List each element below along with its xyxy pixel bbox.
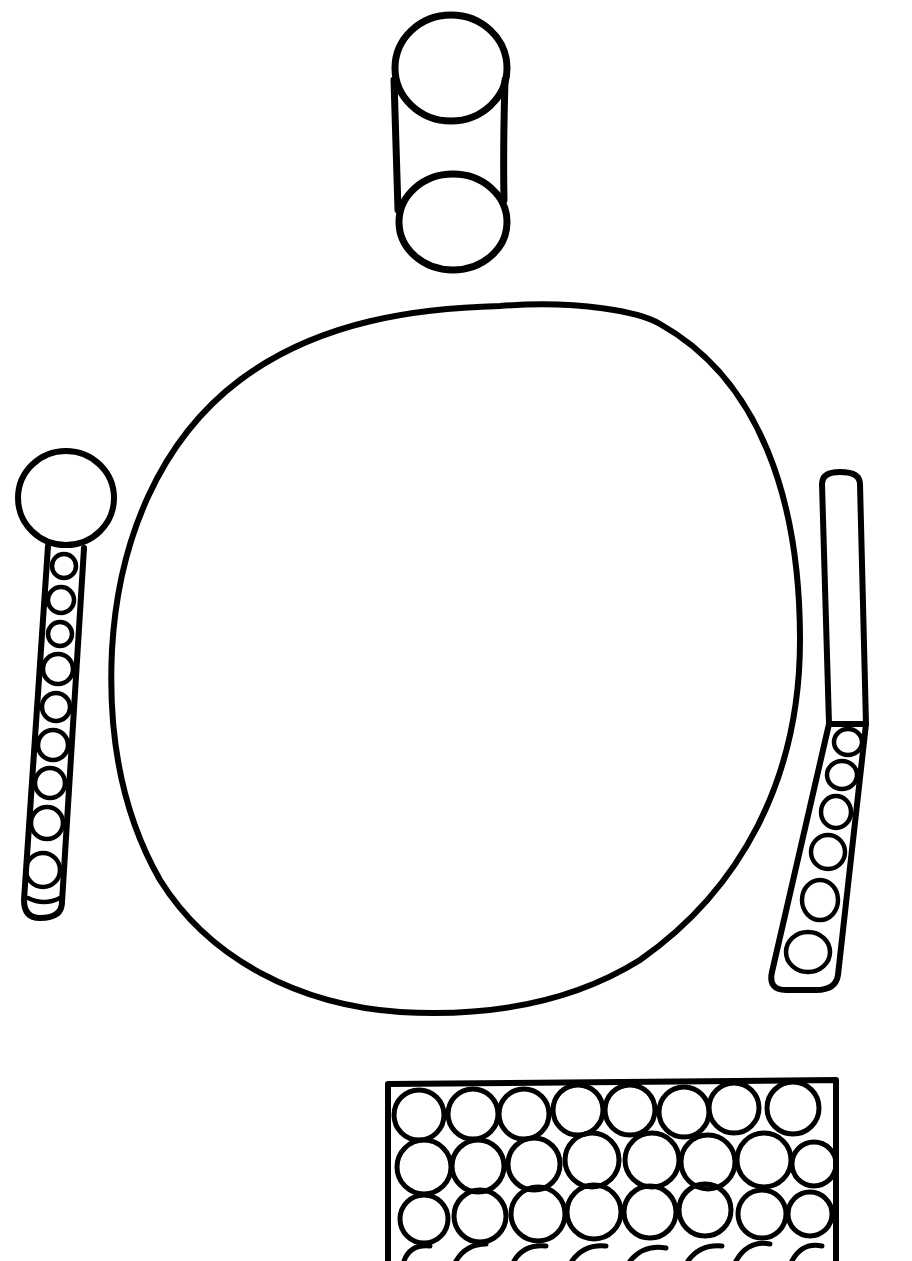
napkin: Napkin xyxy=(388,1080,836,1261)
knife: Knife xyxy=(771,472,866,990)
napkin-circle-row-3 xyxy=(400,1184,832,1243)
spoon: Spoon xyxy=(18,451,114,918)
napkin-circle-row-2 xyxy=(397,1133,836,1194)
table-setting-drawing: Cup Plate Spoon Knife xyxy=(0,0,912,1261)
cup-bottom xyxy=(399,174,507,270)
plate-rim xyxy=(111,304,800,1013)
knife-blade xyxy=(822,472,866,724)
napkin-circle-row-1 xyxy=(394,1082,819,1140)
cup: Cup xyxy=(394,15,507,270)
cup-top-rim xyxy=(395,15,507,121)
napkin-circle-row-4-partial xyxy=(404,1243,822,1261)
spoon-bowl xyxy=(18,451,114,545)
cup-left-side xyxy=(394,80,398,210)
plate: Plate xyxy=(111,304,800,1013)
cup-right-side xyxy=(504,80,505,200)
